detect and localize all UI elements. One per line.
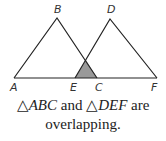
caption-tri2: DEF bbox=[98, 97, 127, 113]
label-e: E bbox=[70, 81, 77, 94]
triangle-symbol-icon: △ bbox=[17, 97, 29, 113]
label-b: B bbox=[54, 3, 62, 16]
label-f: F bbox=[151, 81, 158, 94]
figure-caption: △ABC and △DEF are overlapping. bbox=[0, 96, 166, 134]
caption-are: are bbox=[127, 97, 149, 113]
caption-line-2: overlapping. bbox=[0, 115, 166, 134]
overlap-region bbox=[75, 60, 97, 78]
label-c: C bbox=[95, 81, 103, 94]
label-d: D bbox=[107, 3, 115, 16]
caption-line-1: △ABC and △DEF are bbox=[0, 96, 166, 115]
caption-and: and bbox=[57, 97, 86, 113]
caption-tri1: ABC bbox=[29, 97, 57, 113]
triangle-symbol-icon: △ bbox=[86, 97, 98, 113]
overlapping-triangles-figure: B D A E C F bbox=[0, 0, 166, 96]
label-a: A bbox=[9, 81, 18, 94]
